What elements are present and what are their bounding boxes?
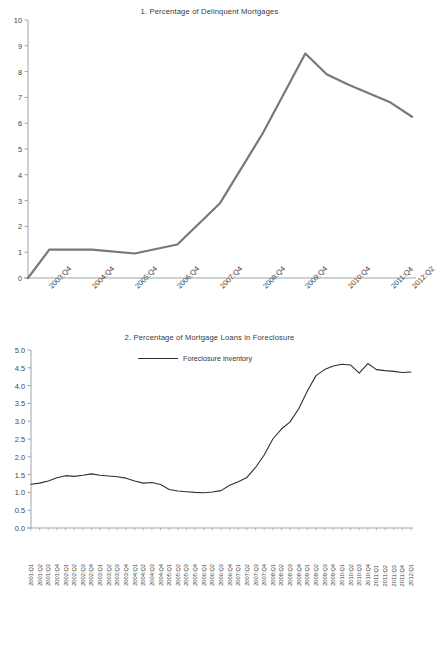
chart-2-y-tick-label: 4.0	[15, 381, 25, 390]
chart-2-x-tick-label: 2006:Q2	[209, 564, 215, 586]
chart-2-x-tick-label: 2010:Q3	[356, 564, 362, 586]
chart-1-y-tick-label: 5	[18, 145, 22, 154]
chart-1-y-tick-label: 2	[18, 222, 22, 231]
chart-2-x-tick-label: 2007:Q4	[261, 564, 267, 586]
chart-2-y-tick-label: 4.5	[15, 363, 25, 372]
chart-2-x-tick-label: 2002:Q2	[71, 564, 77, 586]
page-footer	[4, 644, 416, 652]
chart-1-x-tick-label: 2012:Q2	[410, 264, 436, 290]
chart-1-data-line	[28, 54, 412, 278]
chart-2-x-tick-label: 2004:Q1	[132, 564, 138, 586]
chart-2-axes	[27, 350, 413, 531]
chart-2-x-tick-label: 2009:Q1	[304, 564, 310, 586]
chart-2-x-tick-label: 2006:Q1	[201, 564, 207, 586]
chart-1-y-tick-label: 4	[18, 170, 22, 179]
chart-2-x-tick-label: 2010:Q2	[348, 564, 354, 586]
chart-2-x-tick-label: 2003:Q2	[106, 564, 112, 586]
chart-2-x-tick-label: 2005:Q1	[166, 564, 172, 586]
chart-2-x-tick-label: 2007:Q2	[244, 564, 250, 586]
chart-2-x-tick-label: 2004:Q3	[149, 564, 155, 586]
chart-2-x-tick-label: 2002:Q3	[80, 564, 86, 586]
chart-1-axes	[24, 20, 416, 278]
chart-1-y-tick-label: 8	[18, 67, 22, 76]
chart-2-y-tick-label: 1.5	[15, 470, 25, 479]
chart-2-x-tick-label: 2011:Q1	[373, 565, 379, 586]
chart-2-x-tick-label: 2003:Q3	[114, 564, 120, 586]
chart-2-x-tick-label: 2008:Q1	[270, 564, 276, 586]
chart-2-x-tick-label: 2011:Q4	[399, 565, 405, 586]
chart-2-title: 2. Percentage of Mortgage Loans in Forec…	[0, 333, 419, 342]
chart-2-plot-area	[31, 350, 411, 528]
chart-2-y-tick-label: 5.0	[15, 346, 25, 355]
chart-2-y-tick-label: 2.5	[15, 435, 25, 444]
chart-2-x-tick-label: 2009:Q3	[322, 564, 328, 586]
chart-2-x-tick-label: 2012:Q1	[408, 564, 414, 586]
chart-2-x-tick-label: 2006:Q4	[227, 564, 233, 586]
chart-2-y-tick-label: 1.0	[15, 488, 25, 497]
chart-2-x-tick-label: 2009:Q2	[313, 564, 319, 586]
chart-2-data-line	[31, 364, 411, 493]
chart-1-x-axis-labels: 2003:Q42004:Q42005:Q42006:Q42007:Q42008:…	[28, 280, 412, 328]
chart-1-y-tick-label: 3	[18, 196, 22, 205]
chart-2-x-tick-label: 2011:Q2	[382, 565, 388, 586]
chart-2-x-tick-label: 2005:Q2	[175, 564, 181, 586]
chart-2-x-tick-label: 2001:Q4	[54, 564, 60, 586]
chart-panel-delinquent-mortgages: 1. Percentage of Delinquent Mortgages 01…	[0, 0, 419, 330]
chart-2-y-axis-labels: 0.00.51.01.52.02.53.03.54.04.55.0	[0, 350, 25, 528]
chart-2-y-tick-label: 0.5	[15, 506, 25, 515]
chart-1-y-tick-label: 9	[18, 41, 22, 50]
chart-2-x-tick-label: 2007:Q1	[235, 564, 241, 586]
chart-2-y-tick-label: 3.5	[15, 399, 25, 408]
chart-2-x-tick-label: 2002:Q4	[88, 564, 94, 586]
chart-2-x-axis-labels: 2001:Q12001:Q22001:Q32001:Q42002:Q12002:…	[31, 530, 411, 586]
chart-1-y-tick-label: 1	[18, 248, 22, 257]
chart-2-y-tick-label: 0.0	[15, 524, 25, 533]
chart-1-y-tick-label: 10	[14, 16, 22, 25]
chart-1-title: 1. Percentage of Delinquent Mortgages	[0, 7, 419, 16]
chart-2-x-tick-label: 2004:Q2	[140, 564, 146, 586]
chart-2-x-tick-label: 2001:Q3	[45, 564, 51, 586]
chart-2-y-tick-label: 3.0	[15, 417, 25, 426]
chart-2-x-tick-label: 2008:Q4	[296, 564, 302, 586]
chart-1-plot-area	[28, 20, 412, 278]
chart-2-x-tick-label: 2005:Q4	[192, 564, 198, 586]
chart-1-y-axis-labels: 012345678910	[0, 20, 22, 278]
chart-2-x-tick-label: 2001:Q2	[37, 564, 43, 586]
chart-2-x-tick-label: 2002:Q1	[63, 564, 69, 586]
chart-1-y-tick-label: 6	[18, 119, 22, 128]
chart-2-x-tick-label: 2010:Q1	[339, 564, 345, 586]
chart-2-x-tick-label: 2003:Q1	[97, 564, 103, 586]
chart-1-y-tick-label: 7	[18, 93, 22, 102]
chart-2-x-tick-label: 2009:Q4	[330, 564, 336, 586]
chart-panel-foreclosure-inventory: 2. Percentage of Mortgage Loans in Forec…	[0, 330, 419, 652]
chart-2-x-tick-label: 2005:Q3	[183, 564, 189, 586]
chart-2-x-tick-label: 2008:Q2	[278, 564, 284, 586]
chart-2-x-tick-label: 2001:Q1	[28, 564, 34, 586]
chart-2-y-tick-label: 2.0	[15, 452, 25, 461]
chart-2-x-tick-label: 2004:Q4	[158, 564, 164, 586]
chart-2-x-tick-label: 2007:Q3	[253, 564, 259, 586]
chart-2-x-tick-label: 2006:Q3	[218, 564, 224, 586]
chart-2-x-tick-label: 2003:Q4	[123, 564, 129, 586]
chart-2-x-tick-label: 2011:Q3	[391, 565, 397, 586]
chart-1-y-tick-label: 0	[18, 274, 22, 283]
chart-2-x-tick-label: 2008:Q3	[287, 564, 293, 586]
chart-2-x-tick-label: 2010:Q4	[365, 564, 371, 586]
